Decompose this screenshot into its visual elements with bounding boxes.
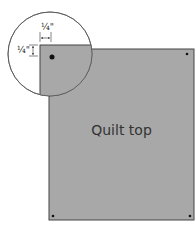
- dimension-label-horizontal: ¼": [41, 23, 54, 32]
- quilt-diagram: [0, 0, 196, 227]
- dimension-label-vertical: ¼": [17, 46, 30, 55]
- corner-dot-top-right: [186, 53, 189, 56]
- corner-dot-magnified: [50, 55, 55, 60]
- corner-dot-bottom-left: [52, 215, 55, 218]
- corner-dot-bottom-right: [189, 215, 192, 218]
- quilt-top-label: Quilt top: [49, 122, 194, 138]
